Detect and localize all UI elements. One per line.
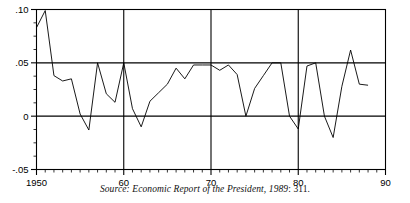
grid-layer: [37, 10, 386, 170]
y-axis-label-3: -.05: [12, 164, 28, 175]
source-note: Source: Economic Report of the President…: [0, 184, 410, 194]
inflation-line-chart: .10.050-.05 195060708090: [0, 0, 410, 203]
source-note-text: Source: Economic Report of the President…: [100, 184, 288, 194]
y-axis-label-2: 0: [23, 111, 28, 122]
ticks-layer: [31, 10, 386, 176]
series-line-inflation-rate: [37, 11, 369, 138]
y-axis-labels: .10.050-.05: [12, 4, 28, 175]
series-layer: [37, 11, 369, 138]
y-axis-label-0: .10: [15, 4, 28, 15]
source-note-page: : 311.: [288, 184, 310, 194]
y-axis-label-1: .05: [15, 57, 28, 68]
figure-container: .10.050-.05 195060708090 Source: Economi…: [0, 0, 410, 203]
